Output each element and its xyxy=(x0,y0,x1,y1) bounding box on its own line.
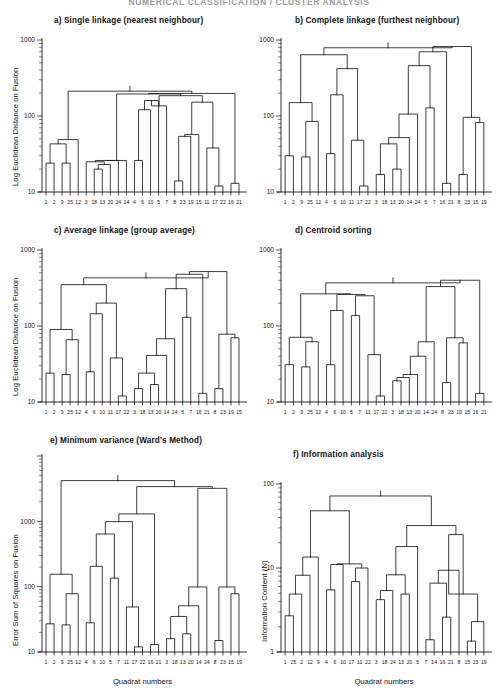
svg-text:18: 18 xyxy=(172,659,178,665)
svg-text:25: 25 xyxy=(291,659,297,665)
panel-a-plot: 1010010001292512318132024144610578231915… xyxy=(0,14,249,220)
svg-text:10: 10 xyxy=(340,199,346,205)
svg-text:25: 25 xyxy=(67,199,73,205)
svg-text:15: 15 xyxy=(473,199,479,205)
svg-text:25: 25 xyxy=(67,409,73,415)
svg-text:1: 1 xyxy=(45,199,48,205)
svg-text:11: 11 xyxy=(204,199,209,205)
svg-text:5: 5 xyxy=(157,199,160,205)
panel-c-title: c) Average linkage (group average) xyxy=(54,226,195,235)
svg-text:18: 18 xyxy=(140,409,146,415)
svg-text:9: 9 xyxy=(300,199,303,205)
svg-text:6: 6 xyxy=(333,199,336,205)
svg-text:1: 1 xyxy=(284,659,287,665)
svg-text:9: 9 xyxy=(317,659,320,665)
panel-d: d) Centroid sorting 10100100012925124610… xyxy=(249,224,498,430)
panel-f-plot: 1101001252129461017112231824132057141621… xyxy=(249,434,498,692)
svg-text:6: 6 xyxy=(333,659,336,665)
svg-text:25: 25 xyxy=(67,659,73,665)
svg-text:11: 11 xyxy=(365,409,370,415)
svg-text:7: 7 xyxy=(165,199,168,205)
svg-text:100: 100 xyxy=(263,480,274,487)
svg-text:14: 14 xyxy=(124,199,130,205)
svg-text:19: 19 xyxy=(236,659,242,665)
svg-text:11: 11 xyxy=(349,199,354,205)
svg-text:22: 22 xyxy=(124,409,130,415)
svg-text:16: 16 xyxy=(440,659,446,665)
svg-text:8: 8 xyxy=(441,409,444,415)
svg-text:21: 21 xyxy=(156,659,162,665)
panel-f-ylabel: Information Content (N) xyxy=(260,560,269,642)
svg-text:3: 3 xyxy=(133,409,136,415)
svg-text:21: 21 xyxy=(204,409,210,415)
svg-text:10: 10 xyxy=(340,409,346,415)
svg-text:21: 21 xyxy=(448,659,454,665)
svg-text:15: 15 xyxy=(236,409,242,415)
svg-text:24: 24 xyxy=(390,659,396,665)
panel-c: c) Average linkage (group average) Log E… xyxy=(0,224,249,430)
svg-text:23: 23 xyxy=(473,659,479,665)
svg-text:1: 1 xyxy=(45,409,48,415)
svg-text:4: 4 xyxy=(85,659,88,665)
panel-e: e) Minimum variance (Ward's Method) Erro… xyxy=(0,434,249,692)
panel-f-xlabel: Quadrat numbers xyxy=(279,677,489,686)
svg-text:16: 16 xyxy=(228,199,234,205)
svg-text:19: 19 xyxy=(481,659,487,665)
svg-text:7: 7 xyxy=(189,409,192,415)
svg-text:1000: 1000 xyxy=(259,36,274,43)
svg-text:3: 3 xyxy=(375,659,378,665)
svg-text:13: 13 xyxy=(148,409,154,415)
panel-f-title: f) Information analysis xyxy=(293,450,384,459)
svg-text:13: 13 xyxy=(398,659,404,665)
svg-text:3: 3 xyxy=(391,409,394,415)
panel-d-plot: 1010010001292512461057111722318132014248… xyxy=(249,224,498,430)
panel-f: f) Information analysis Information Cont… xyxy=(249,434,498,692)
svg-text:19: 19 xyxy=(481,199,487,205)
svg-text:1: 1 xyxy=(270,648,274,655)
svg-text:24: 24 xyxy=(431,409,437,415)
svg-text:6: 6 xyxy=(93,409,96,415)
svg-text:20: 20 xyxy=(415,409,421,415)
svg-text:5: 5 xyxy=(350,409,353,415)
svg-text:2: 2 xyxy=(292,199,295,205)
svg-text:13: 13 xyxy=(99,199,105,205)
svg-text:4: 4 xyxy=(325,409,328,415)
svg-text:24: 24 xyxy=(204,659,210,665)
svg-text:14: 14 xyxy=(196,659,202,665)
svg-text:6: 6 xyxy=(333,409,336,415)
svg-text:100: 100 xyxy=(24,322,35,329)
panel-e-plot: 1010010001292512461057111722162131813201… xyxy=(0,434,249,692)
svg-text:12: 12 xyxy=(75,659,81,665)
svg-text:10: 10 xyxy=(148,199,154,205)
svg-text:100: 100 xyxy=(24,112,35,119)
svg-text:1: 1 xyxy=(45,659,48,665)
svg-text:1000: 1000 xyxy=(259,246,274,253)
svg-text:10: 10 xyxy=(28,648,36,655)
svg-text:11: 11 xyxy=(108,409,113,415)
svg-text:23: 23 xyxy=(464,199,470,205)
svg-text:19: 19 xyxy=(188,199,194,205)
svg-text:17: 17 xyxy=(349,659,355,665)
svg-text:7: 7 xyxy=(358,409,361,415)
svg-text:9: 9 xyxy=(61,199,64,205)
svg-text:7: 7 xyxy=(424,659,427,665)
svg-text:9: 9 xyxy=(61,659,64,665)
svg-text:8: 8 xyxy=(213,659,216,665)
svg-text:24: 24 xyxy=(116,199,122,205)
svg-text:8: 8 xyxy=(213,409,216,415)
panel-c-ylabel: Log Euclidean Distance on Fusion xyxy=(11,278,20,396)
svg-text:24: 24 xyxy=(415,199,421,205)
svg-text:2: 2 xyxy=(300,659,303,665)
svg-text:4: 4 xyxy=(325,199,328,205)
svg-text:22: 22 xyxy=(140,659,146,665)
svg-text:15: 15 xyxy=(228,659,234,665)
svg-text:22: 22 xyxy=(365,199,371,205)
svg-text:4: 4 xyxy=(325,659,328,665)
panel-b: b) Complete linkage (furthest neighbour)… xyxy=(249,14,498,220)
svg-text:17: 17 xyxy=(132,659,138,665)
svg-text:14: 14 xyxy=(164,409,170,415)
svg-text:1000: 1000 xyxy=(20,518,35,525)
svg-text:19: 19 xyxy=(228,409,234,415)
svg-text:23: 23 xyxy=(220,409,226,415)
svg-text:15: 15 xyxy=(464,659,470,665)
